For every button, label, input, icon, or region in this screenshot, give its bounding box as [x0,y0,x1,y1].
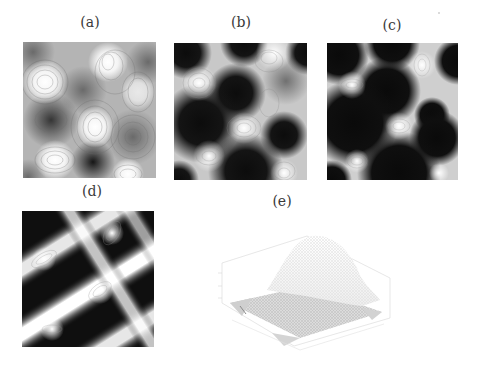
panel-c-contour-map [327,43,458,180]
panel-e-surface-plot [212,228,402,360]
panel-b-label: (b) [221,14,261,30]
stray-mark [438,12,440,14]
panel-e-label: (e) [262,193,302,209]
panel-c-label: (c) [372,17,412,33]
panel-a-label: (a) [70,14,110,30]
panel-a-contour-map [23,42,156,178]
panel-b-contour-map [174,43,307,180]
panel-d-label: (d) [72,183,112,199]
panel-d-contour-map [22,211,154,347]
